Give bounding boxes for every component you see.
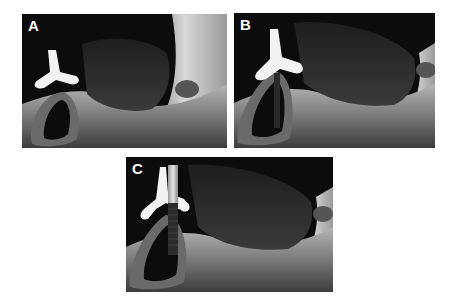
figure-panel-c: C	[126, 157, 333, 292]
jaw-render-image	[22, 14, 227, 148]
panel-label: C	[132, 161, 143, 176]
panel-label: B	[240, 17, 251, 32]
jaw-render-image	[126, 157, 333, 292]
figure-panel-a: A	[22, 14, 227, 148]
panel-label: A	[28, 18, 39, 33]
figure-panel-b: B	[234, 13, 435, 148]
jaw-render-image	[234, 13, 435, 148]
